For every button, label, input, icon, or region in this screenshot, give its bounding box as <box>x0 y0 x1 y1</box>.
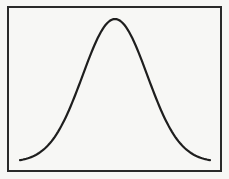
bell-curve-line <box>20 19 210 160</box>
chart-frame <box>8 7 221 171</box>
bell-curve-chart <box>0 0 229 179</box>
